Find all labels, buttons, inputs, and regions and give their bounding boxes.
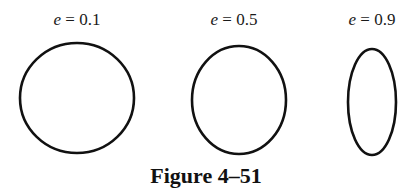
label-equals: =	[218, 10, 236, 29]
ellipse-e-0-9	[348, 49, 396, 155]
label-variable: e	[211, 10, 219, 29]
ellipse-e-0-5	[192, 46, 286, 154]
label-equals: =	[356, 10, 374, 29]
figure-caption: Figure 4–51	[150, 163, 261, 189]
label-value: 0.5	[236, 10, 257, 29]
label-variable: e	[349, 10, 357, 29]
eccentricity-figure: e = 0.1 e = 0.5 e = 0.9 Figure 4–51	[0, 0, 412, 193]
label-variable: e	[54, 10, 62, 29]
label-e-0-1: e = 0.1	[54, 10, 101, 30]
label-value: 0.9	[374, 10, 395, 29]
label-e-0-9: e = 0.9	[349, 10, 396, 30]
label-e-0-5: e = 0.5	[211, 10, 258, 30]
label-equals: =	[61, 10, 79, 29]
ellipse-e-0-1	[20, 43, 134, 153]
label-value: 0.1	[79, 10, 100, 29]
